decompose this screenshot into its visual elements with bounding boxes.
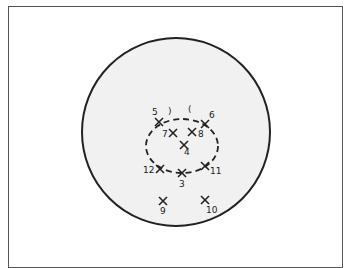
point-label: 12 [143, 165, 154, 175]
point-label: 7 [162, 129, 168, 139]
point-label: 8 [198, 129, 204, 139]
point-label: 3 [179, 179, 185, 189]
bracket-mark: ( [188, 104, 192, 114]
point-label: 11 [210, 166, 221, 176]
point-label: 9 [160, 206, 166, 216]
point-label: 10 [206, 205, 218, 215]
point-label: 5 [152, 107, 158, 117]
bracket-mark: ) [168, 106, 172, 116]
outer-circle [82, 38, 270, 226]
point-label: 6 [209, 110, 215, 120]
point-label: 4 [184, 147, 190, 157]
